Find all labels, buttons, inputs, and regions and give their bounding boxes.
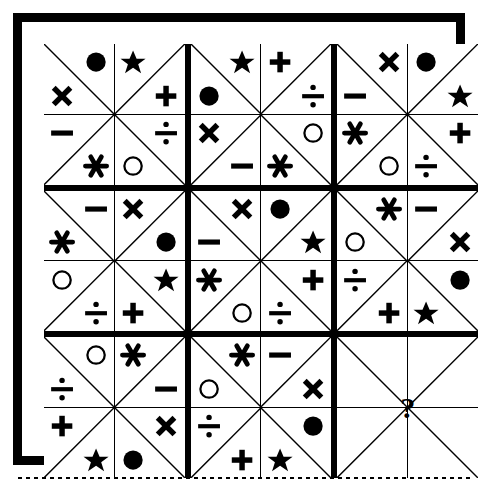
asterisk-icon: [193, 264, 225, 296]
plus-icon: [444, 117, 476, 149]
minus-icon: [80, 193, 112, 225]
puzzle-block-bottom-right[interactable]: ?: [337, 337, 478, 478]
puzzle-block-middle-left: [44, 191, 185, 332]
asterisk-icon: [264, 150, 296, 182]
puzzle-block-bottom-center: [191, 337, 332, 478]
dotted-rule-divider: [16, 476, 472, 480]
cross-icon: [297, 373, 329, 405]
cross-icon: [117, 193, 149, 225]
puzzle-cell: [408, 191, 478, 261]
asterisk-icon: [117, 339, 149, 371]
puzzle-cell: [408, 337, 478, 407]
open-circle-icon: [193, 373, 225, 405]
cross-icon: [444, 226, 476, 258]
puzzle-cell: [44, 115, 114, 185]
asterisk-icon: [339, 117, 371, 149]
puzzle-cell: [191, 191, 261, 261]
puzzle-block-top-left: [44, 44, 185, 185]
filled-circle-icon: [80, 46, 112, 78]
asterisk-icon: [226, 339, 258, 371]
minus-icon: [46, 117, 78, 149]
puzzle-cell: [337, 44, 407, 114]
minus-icon: [226, 150, 258, 182]
asterisk-icon: [373, 193, 405, 225]
puzzle-cell: [261, 337, 331, 407]
star-icon: [264, 444, 296, 476]
plus-icon: [46, 410, 78, 442]
plus-icon: [226, 444, 258, 476]
open-circle-icon: [80, 339, 112, 371]
puzzle-cell: [44, 261, 114, 331]
plus-icon: [297, 264, 329, 296]
filled-circle-icon: [410, 46, 442, 78]
cross-icon: [193, 117, 225, 149]
star-icon: [150, 264, 182, 296]
puzzle-cell: [115, 115, 185, 185]
open-circle-icon: [297, 117, 329, 149]
minus-icon: [410, 193, 442, 225]
divide-icon: [46, 373, 78, 405]
puzzle-block-top-right: [337, 44, 478, 185]
puzzle-block-middle-right: [337, 191, 478, 332]
puzzle-cell: [44, 44, 114, 114]
puzzle-cell: [337, 337, 407, 407]
puzzle-cell: [115, 337, 185, 407]
filled-circle-icon: [297, 410, 329, 442]
puzzle-cell: [44, 191, 114, 261]
divide-icon: [150, 117, 182, 149]
star-icon: [297, 226, 329, 258]
puzzle-cell: [337, 408, 407, 478]
puzzle-cell: [191, 261, 261, 331]
puzzle-block-bottom-left: [44, 337, 185, 478]
cross-icon: [150, 410, 182, 442]
plus-icon: [373, 297, 405, 329]
divide-icon: [193, 410, 225, 442]
divide-icon: [339, 264, 371, 296]
puzzle-cell: [337, 261, 407, 331]
puzzle-frame: ?: [13, 13, 465, 465]
filled-circle-icon: [193, 80, 225, 112]
puzzle-cell: [44, 337, 114, 407]
puzzle-cell: [408, 44, 478, 114]
puzzle-cell: [408, 115, 478, 185]
plus-icon: [117, 297, 149, 329]
cross-icon: [46, 80, 78, 112]
divide-icon: [80, 297, 112, 329]
puzzle-block-middle-center: [191, 191, 332, 332]
star-icon: [117, 46, 149, 78]
puzzle-cell: [191, 115, 261, 185]
filled-circle-icon: [150, 226, 182, 258]
minus-icon: [193, 226, 225, 258]
cell-diagonal-tr-bl: [337, 408, 407, 478]
minus-icon: [264, 339, 296, 371]
star-icon: [444, 80, 476, 112]
cross-icon: [373, 46, 405, 78]
puzzle-cell: [261, 44, 331, 114]
puzzle-root: ?: [0, 0, 480, 489]
puzzle-cell: [191, 408, 261, 478]
filled-circle-icon: [264, 193, 296, 225]
minus-icon: [339, 80, 371, 112]
asterisk-icon: [46, 226, 78, 258]
puzzle-cell: [261, 115, 331, 185]
puzzle-cell: [337, 115, 407, 185]
divide-icon: [410, 150, 442, 182]
filled-circle-icon: [444, 264, 476, 296]
puzzle-block-top-center: [191, 44, 332, 185]
puzzle-cell: [191, 44, 261, 114]
puzzle-grid: ?: [44, 44, 478, 478]
asterisk-icon: [80, 150, 112, 182]
open-circle-icon: [339, 226, 371, 258]
puzzle-cell: [44, 408, 114, 478]
open-circle-icon: [117, 150, 149, 182]
divide-icon: [264, 297, 296, 329]
puzzle-cell: [261, 191, 331, 261]
cell-diagonal-tl-br: [408, 408, 478, 478]
puzzle-cell: [115, 44, 185, 114]
cross-icon: [226, 193, 258, 225]
puzzle-cell: [115, 408, 185, 478]
puzzle-cell: [261, 408, 331, 478]
open-circle-icon: [46, 264, 78, 296]
puzzle-cell: [261, 261, 331, 331]
star-icon: [80, 444, 112, 476]
